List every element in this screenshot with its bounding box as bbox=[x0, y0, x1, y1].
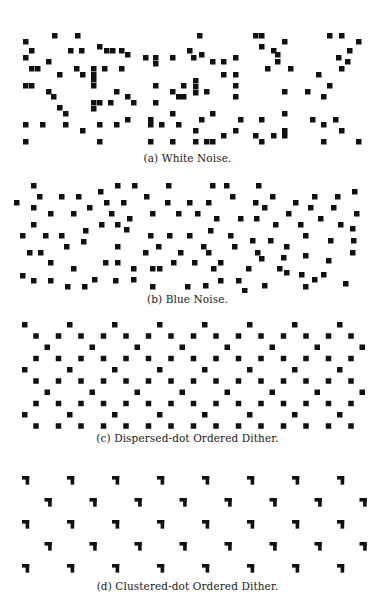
dot bbox=[193, 78, 199, 84]
dot bbox=[350, 250, 356, 256]
dot bbox=[339, 33, 345, 39]
dot bbox=[150, 211, 156, 217]
dot bbox=[78, 333, 84, 339]
dot bbox=[135, 345, 141, 351]
dot bbox=[112, 367, 118, 373]
dot bbox=[347, 48, 353, 54]
dot bbox=[262, 205, 268, 211]
dot bbox=[296, 520, 300, 529]
dot bbox=[159, 122, 165, 128]
dot bbox=[339, 128, 345, 134]
dot bbox=[255, 250, 261, 256]
dot bbox=[326, 356, 332, 362]
dot bbox=[33, 356, 39, 362]
dot bbox=[282, 39, 288, 45]
dot bbox=[270, 390, 276, 396]
dot bbox=[348, 401, 354, 407]
dot bbox=[153, 83, 159, 89]
dot bbox=[333, 117, 339, 123]
dot bbox=[360, 345, 366, 351]
dot bbox=[108, 100, 114, 106]
dot bbox=[46, 59, 52, 65]
dot bbox=[157, 367, 163, 373]
caption-white-noise: (a) White Noise. bbox=[0, 152, 375, 164]
dot bbox=[33, 378, 39, 384]
dot bbox=[78, 378, 84, 384]
dot bbox=[148, 122, 154, 128]
dot bbox=[238, 117, 244, 123]
dot bbox=[26, 476, 30, 485]
dot bbox=[335, 194, 341, 200]
dot bbox=[211, 266, 217, 272]
dot bbox=[93, 542, 97, 551]
dot bbox=[91, 83, 97, 89]
dot bbox=[282, 111, 288, 117]
dot bbox=[208, 228, 214, 234]
dot bbox=[91, 72, 97, 78]
dot bbox=[81, 239, 87, 245]
dot bbox=[153, 61, 159, 67]
dot bbox=[270, 345, 276, 351]
dot bbox=[123, 378, 129, 384]
dot bbox=[277, 266, 283, 272]
dot bbox=[131, 277, 137, 283]
dot bbox=[303, 423, 309, 429]
dot bbox=[206, 520, 210, 529]
dot bbox=[123, 356, 129, 362]
dot bbox=[112, 412, 118, 418]
dot bbox=[250, 238, 256, 244]
dot bbox=[104, 48, 110, 54]
dot bbox=[341, 564, 345, 573]
dot bbox=[144, 194, 150, 200]
dot bbox=[91, 66, 97, 72]
dot bbox=[27, 250, 33, 256]
dot bbox=[258, 356, 264, 362]
dot bbox=[170, 139, 176, 145]
dot bbox=[75, 33, 81, 39]
dot bbox=[153, 100, 159, 106]
dot bbox=[206, 476, 210, 485]
dot bbox=[148, 233, 154, 239]
dot bbox=[298, 222, 304, 228]
dot bbox=[121, 200, 127, 206]
dot bbox=[157, 412, 163, 418]
dot bbox=[103, 260, 109, 266]
dot bbox=[246, 266, 252, 272]
dot bbox=[168, 378, 174, 384]
dot bbox=[259, 44, 265, 50]
dot bbox=[303, 233, 309, 239]
dot bbox=[181, 94, 187, 100]
dot bbox=[176, 94, 182, 100]
caption-dispersed-dot: (c) Dispersed-dot Ordered Dither. bbox=[0, 432, 375, 444]
dot bbox=[326, 258, 332, 264]
clustered-dot-pattern bbox=[0, 468, 375, 578]
dot bbox=[127, 216, 133, 222]
dot bbox=[337, 322, 343, 328]
dot bbox=[125, 52, 131, 58]
dot bbox=[97, 100, 103, 106]
dot bbox=[318, 542, 322, 551]
dot bbox=[327, 83, 333, 89]
dot bbox=[119, 48, 125, 54]
dot bbox=[265, 66, 271, 72]
dot bbox=[125, 117, 131, 123]
dot bbox=[281, 356, 287, 362]
dot bbox=[254, 216, 260, 222]
dot bbox=[315, 390, 321, 396]
dot bbox=[56, 356, 62, 362]
dot bbox=[168, 423, 174, 429]
dot bbox=[116, 564, 120, 573]
dot bbox=[193, 84, 199, 90]
dot bbox=[321, 122, 327, 128]
dot bbox=[303, 356, 309, 362]
dot bbox=[148, 139, 154, 145]
dot bbox=[97, 44, 103, 50]
dot bbox=[48, 211, 54, 217]
dot bbox=[236, 278, 242, 284]
dot bbox=[143, 250, 149, 256]
dot bbox=[71, 520, 75, 529]
dot bbox=[210, 183, 216, 189]
dot bbox=[71, 476, 75, 485]
dot bbox=[360, 390, 366, 396]
dot bbox=[273, 542, 277, 551]
